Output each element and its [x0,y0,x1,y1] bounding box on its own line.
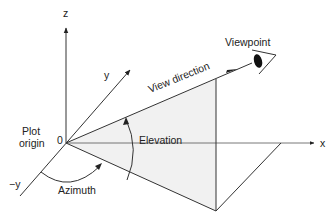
z-axis-label: z [63,7,68,19]
y-axis-label: y [104,69,110,81]
plot-origin-label-line1: Plot [22,125,40,137]
azimuth-label: Azimuth [58,184,96,196]
origin-label: 0 [57,134,63,146]
neg-y-axis-label: −y [9,178,21,190]
elevation-label: Elevation [139,134,182,146]
eye-icon [252,50,276,74]
view-geometry-diagram: z y −y x 0 Plot origin View direction Vi… [0,0,334,220]
viewpoint-label: Viewpoint [225,36,270,48]
azimuth-arc [41,163,102,182]
x-axis-label: x [320,137,326,149]
plot-origin-label-line2: origin [19,137,45,149]
